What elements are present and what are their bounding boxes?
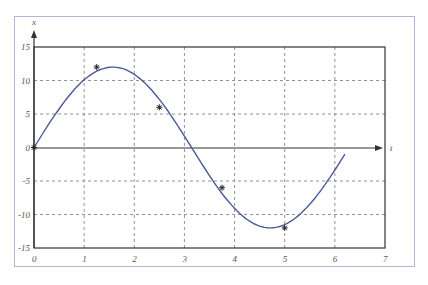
tick-labels: 01234567151050-5-10-15 — [18, 42, 388, 264]
x-axis-arrow-icon — [31, 30, 37, 38]
y-axis-label: x — [31, 17, 36, 27]
x-tick-label: 5 — [283, 254, 288, 264]
x-axis-label: t — [390, 143, 393, 153]
y-tick-label: 10 — [21, 76, 31, 86]
asterisk-marker-icon — [156, 104, 162, 110]
x-tick-label: 6 — [333, 254, 338, 264]
x-tick-label: 3 — [181, 254, 187, 264]
x-tick-label: 4 — [233, 254, 238, 264]
x-tick-label: 1 — [82, 254, 87, 264]
y-tick-label: -15 — [18, 243, 30, 253]
asterisk-marker-icon — [219, 185, 225, 191]
asterisk-marker-icon — [94, 64, 100, 70]
x-tick-label: 7 — [383, 254, 388, 264]
t-axis-arrow-icon — [375, 145, 383, 151]
asterisk-marker-icon — [282, 225, 288, 231]
chart-plot: 01234567151050-5-10-15 x t — [0, 0, 428, 285]
y-tick-label: 15 — [21, 42, 31, 52]
y-tick-label: 0 — [26, 143, 31, 153]
y-tick-label: 5 — [26, 109, 31, 119]
x-tick-label: 0 — [32, 254, 37, 264]
x-tick-label: 2 — [132, 254, 137, 264]
y-tick-label: -10 — [18, 210, 30, 220]
y-tick-label: -5 — [23, 176, 31, 186]
asterisk-marker-icon — [31, 145, 37, 151]
